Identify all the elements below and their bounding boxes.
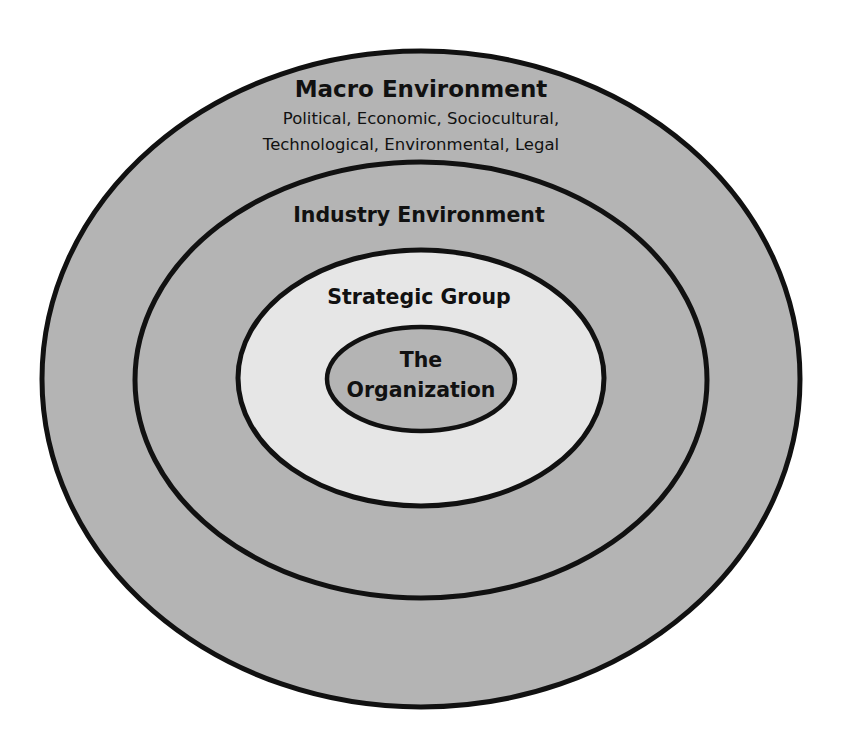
industry-environment-title: Industry Environment (293, 203, 545, 227)
macro-environment-factors-line2: Technological, Environmental, Legal (262, 135, 559, 154)
macro-environment-factors-line1: Political, Economic, Sociocultural, (283, 109, 559, 128)
macro-environment-title: Macro Environment (295, 76, 548, 102)
organization-title-line2: Organization (347, 378, 496, 402)
organization-title-line1: The (400, 348, 442, 372)
environment-layers-diagram: Macro Environment Political, Economic, S… (0, 0, 853, 735)
strategic-group-title: Strategic Group (327, 285, 511, 309)
